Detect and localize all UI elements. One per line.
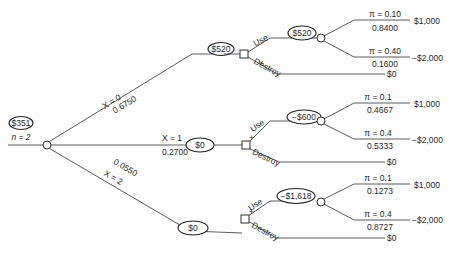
x0-destroy-payoff: $0 — [387, 69, 397, 79]
x2-out2-pi: π = 0.4 — [364, 209, 392, 219]
x1-chance-node — [317, 117, 325, 125]
x0-out2-payoff: −$2,000 — [412, 53, 443, 63]
x1-value: $0 — [195, 140, 205, 150]
x0-out1-prob: 0.8400 — [372, 23, 398, 33]
x1-out2-prob: 0.5333 — [367, 141, 393, 151]
root-sample-label: n = 2 — [11, 132, 30, 142]
x0-destroy-label: Destroy — [252, 56, 283, 79]
x1-destroy-payoff: $0 — [387, 157, 397, 167]
x0-out1-payoff: $1,000 — [414, 16, 440, 26]
x2-out2-prob: 0.8727 — [367, 222, 393, 232]
x2-destroy-payoff: $0 — [387, 233, 397, 243]
root-value: $351 — [12, 118, 31, 128]
x2-out1-line — [324, 184, 354, 199]
x2-use-hash-icon: + — [249, 207, 254, 217]
x2-decision-node — [241, 215, 249, 223]
x2-out1-pi: π = 0.1 — [364, 173, 392, 183]
x0-out1-line — [324, 20, 354, 36]
x1-out2-line — [324, 124, 354, 139]
branch-x1-label: X = 1 — [162, 133, 182, 143]
x1-out2-payoff: −$2,000 — [412, 135, 443, 145]
x0-use-value: $520 — [293, 28, 312, 38]
x1-use-hash-icon: + — [249, 133, 254, 143]
x2-use-value: −$1,618 — [281, 191, 312, 201]
x0-out2-line — [324, 41, 354, 57]
x2-chance-node — [317, 198, 325, 206]
x0-chance-node — [317, 34, 325, 42]
x1-out1-pi: π = 0.1 — [364, 92, 392, 102]
x1-use-value: −$600 — [292, 112, 316, 122]
x0-value: $520 — [212, 44, 231, 54]
x2-out1-payoff: $1,000 — [414, 180, 440, 190]
x1-out1-prob: 0.4667 — [367, 105, 393, 115]
x1-out1-line — [324, 103, 354, 119]
x0-out2-pi: π = 0.40 — [369, 46, 401, 56]
x1-use-label: Use — [248, 117, 266, 134]
x1-out1-payoff: $1,000 — [414, 99, 440, 109]
x0-decision-node — [240, 50, 248, 58]
x2-value: $0 — [188, 223, 198, 233]
root-chance-node — [43, 141, 51, 149]
x0-use-label: Use — [252, 32, 270, 48]
x0-out1-pi: π = 0.10 — [369, 9, 401, 19]
x1-out2-pi: π = 0.4 — [364, 128, 392, 138]
x0-out2-prob: 0.1600 — [372, 59, 398, 69]
x1-destroy-label: Destroy — [251, 147, 282, 169]
x2-out1-prob: 0.1273 — [367, 186, 393, 196]
x2-out2-line — [324, 204, 354, 220]
branch-x1-prob: 0.2700 — [162, 147, 188, 157]
x2-destroy-label: Destroy — [250, 220, 281, 243]
decision-tree-diagram: $351 n = 2 X = 0 0.6750 X = 1 0.2700 0.0… — [0, 0, 453, 261]
x2-out2-payoff: −$2,000 — [412, 215, 443, 225]
